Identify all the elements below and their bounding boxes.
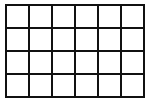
grid-cell — [6, 28, 29, 51]
grid-cell — [98, 51, 121, 74]
grid-cell — [29, 5, 52, 28]
grid-cell — [75, 74, 98, 97]
grid-cell — [52, 5, 75, 28]
grid-cell — [98, 5, 121, 28]
grid-cell — [52, 51, 75, 74]
grid-cell — [121, 28, 144, 51]
grid-cell — [121, 51, 144, 74]
grid-cell — [6, 51, 29, 74]
grid-cell — [29, 51, 52, 74]
grid-cell — [98, 28, 121, 51]
grid — [5, 4, 145, 98]
grid-cell — [52, 74, 75, 97]
grid-cell — [75, 5, 98, 28]
grid-cell — [75, 28, 98, 51]
grid-cell — [29, 28, 52, 51]
grid-cell — [52, 28, 75, 51]
grid-cell — [98, 74, 121, 97]
grid-cell — [121, 5, 144, 28]
grid-cell — [29, 74, 52, 97]
grid-cell — [75, 51, 98, 74]
grid-cell — [121, 74, 144, 97]
grid-cell — [6, 74, 29, 97]
grid-cell — [6, 5, 29, 28]
